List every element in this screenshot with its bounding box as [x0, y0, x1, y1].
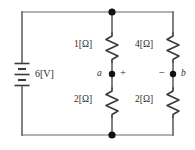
resistor-label-4ohm: 4[Ω] — [135, 40, 153, 50]
terminal-b-dot-icon — [170, 71, 176, 77]
junction-top-dot-icon — [108, 8, 115, 15]
resistor-zigzag-4ohm — [167, 33, 179, 62]
resistor-label-2ohm-left: 2[Ω] — [74, 95, 92, 105]
terminal-a-polarity-sign: + — [120, 68, 126, 79]
resistor-zigzag-1ohm — [106, 33, 118, 62]
terminal-a-label: a — [97, 69, 102, 79]
terminal-a-dot-icon — [109, 71, 115, 77]
circuit-diagram-figure: 6[V] 1[Ω] 4[Ω] 2[Ω] 2[Ω] a + − b — [0, 0, 195, 150]
resistor-label-1ohm: 1[Ω] — [74, 40, 92, 50]
terminal-b-polarity-sign: − — [159, 68, 165, 79]
resistor-label-2ohm-right: 2[Ω] — [135, 95, 153, 105]
battery-symbol-icon — [15, 64, 30, 86]
battery-voltage-label: 6[V] — [35, 69, 54, 79]
resistor-zigzag-2ohm-right — [167, 88, 179, 117]
junction-bottom-dot-icon — [108, 131, 115, 138]
terminal-b-label: b — [181, 69, 186, 79]
resistor-zigzag-2ohm-left — [106, 88, 118, 117]
